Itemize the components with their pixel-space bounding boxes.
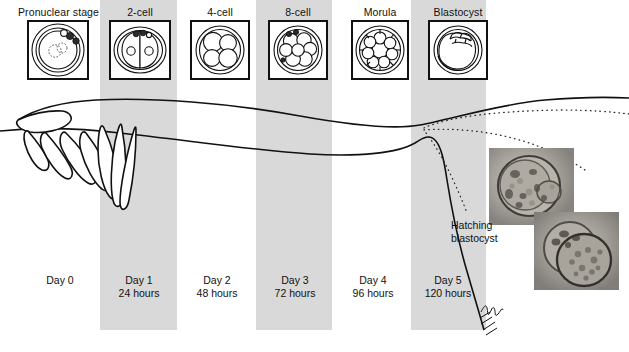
timeline-day-3-day: Day 3	[263, 274, 327, 287]
hatching-blastocyst-label-line1: Hatching	[451, 219, 498, 232]
timeline-day-1-hours: 24 hours	[107, 287, 171, 300]
timeline-day-0: Day 0	[28, 274, 92, 287]
timeline-day-2: Day 2 48 hours	[185, 274, 249, 300]
timeline-day-1-day: Day 1	[107, 274, 171, 287]
eight-cell-embryo-icon	[274, 26, 322, 74]
timeline-day-5-hours: 120 hours	[414, 287, 482, 300]
morula-embryo-icon	[356, 26, 404, 74]
four-cell-embryo-icon	[196, 26, 244, 74]
timeline-day-5: Day 5 120 hours	[414, 274, 482, 300]
timeline-day-1: Day 1 24 hours	[107, 274, 171, 300]
timeline-day-5-day: Day 5	[414, 274, 482, 287]
timeline-day-2-hours: 48 hours	[185, 287, 249, 300]
timeline-day-4-day: Day 4	[341, 274, 405, 287]
hatching-blastocyst-photo-lower	[534, 212, 619, 290]
two-cell-embryo-icon	[114, 27, 166, 73]
pronuclear-stage-embryo-icon	[32, 24, 84, 76]
timeline-day-4: Day 4 96 hours	[341, 274, 405, 300]
hatching-blastocyst-label-line2: blastocyst	[451, 232, 498, 245]
timeline-day-2-day: Day 2	[185, 274, 249, 287]
fimbriae-fallopian-tube-icon	[17, 111, 136, 209]
embryo-development-figure: Pronuclear stage 2-cell 4-cell 8-cell Mo…	[0, 0, 629, 352]
timeline-day-0-day: Day 0	[28, 274, 92, 287]
hatching-blastocyst-label: Hatching blastocyst	[451, 219, 498, 245]
artist-signature-icon	[480, 306, 503, 335]
timeline-day-3: Day 3 72 hours	[263, 274, 327, 300]
timeline-day-4-hours: 96 hours	[341, 287, 405, 300]
timeline-day-3-hours: 72 hours	[263, 287, 327, 300]
blastocyst-embryo-icon	[434, 26, 482, 74]
